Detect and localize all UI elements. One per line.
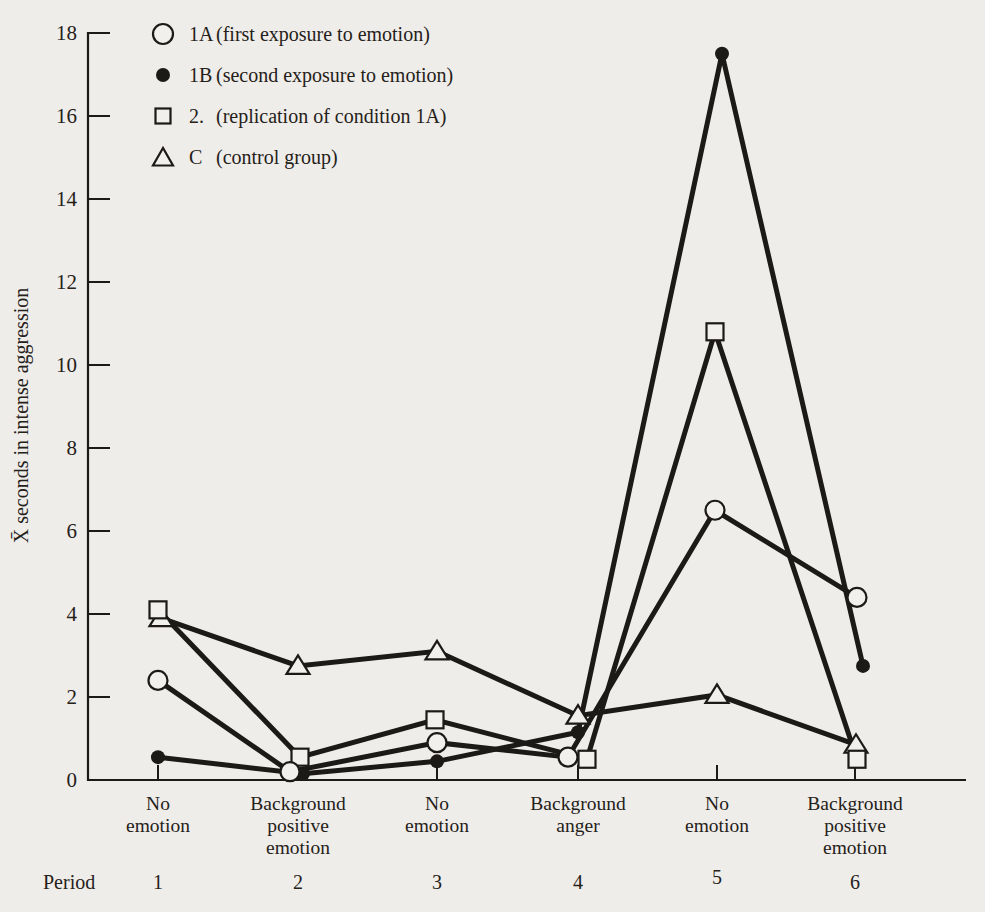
x-axis-label-line: emotion — [807, 837, 902, 859]
x-axis-label-period-2: Backgroundpositiveemotion — [250, 793, 345, 859]
legend-description: (second exposure to emotion) — [216, 64, 453, 87]
series-1B-filled-circle-marker — [430, 754, 444, 768]
series-2-open-square-marker — [150, 601, 167, 618]
series-1A-open-circle-marker — [149, 671, 168, 690]
series-1A-open-circle-marker — [281, 762, 300, 781]
x-axis-label-period-1: Noemotion — [126, 793, 190, 837]
series-2-open-square-marker — [427, 711, 444, 728]
period-number-1: 1 — [153, 871, 163, 894]
series-2-open-square-marker — [707, 323, 724, 340]
period-number-6: 6 — [850, 871, 860, 894]
series-1A-open-circle-marker — [706, 501, 725, 520]
x-axis-label-line: Background — [530, 793, 625, 815]
x-axis-label-period-3: Noemotion — [405, 793, 469, 837]
y-tick-label-18: 18 — [25, 21, 77, 45]
legend-code: C — [189, 146, 216, 169]
x-axis-label-line: emotion — [405, 815, 469, 837]
open-triangle-icon — [150, 145, 176, 169]
y-tick-label-8: 8 — [25, 436, 77, 460]
series-1A-open-circle-marker — [428, 733, 447, 752]
series-1B-filled-circle-marker — [571, 725, 585, 739]
legend-description: (replication of condition 1A) — [216, 105, 447, 128]
y-tick-label-12: 12 — [25, 270, 77, 294]
period-number-5: 5 — [712, 866, 722, 889]
legend-item-1B: 1B (second exposure to emotion) — [150, 63, 453, 87]
x-axis-label-line: emotion — [250, 837, 345, 859]
x-axis-label-line: emotion — [685, 815, 749, 837]
chart-canvas — [0, 0, 985, 912]
x-axis-label-line: Background — [250, 793, 345, 815]
open-square-icon — [150, 104, 176, 128]
y-tick-label-6: 6 — [25, 519, 77, 543]
legend-code: 1B — [189, 64, 216, 87]
legend-code: 1A — [189, 23, 216, 46]
y-tick-label-16: 16 — [25, 104, 77, 128]
series-1A-open-circle-marker — [848, 588, 867, 607]
y-tick-label-4: 4 — [25, 602, 77, 626]
x-axis-label-line: No — [126, 793, 190, 815]
y-tick-label-10: 10 — [25, 353, 77, 377]
legend-item-C: C (control group) — [150, 145, 453, 169]
period-row-label: Period — [43, 871, 95, 894]
legend-description: (first exposure to emotion) — [216, 23, 430, 46]
scanned-figure-page: X̄ seconds in intense aggression 0246810… — [0, 0, 985, 912]
x-axis-label-line: anger — [530, 815, 625, 837]
legend-code: 2. — [189, 105, 216, 128]
series-2-open-square-marker — [579, 751, 596, 768]
y-tick-label-14: 14 — [25, 187, 77, 211]
filled-circle-icon — [150, 63, 176, 87]
series-1B-filled-circle-marker — [856, 659, 870, 673]
x-axis-label-line: No — [405, 793, 469, 815]
y-tick-label-0: 0 — [25, 768, 77, 792]
x-axis-label-period-6: Backgroundpositiveemotion — [807, 793, 902, 859]
x-axis-label-line: emotion — [126, 815, 190, 837]
x-axis-label-line: No — [685, 793, 749, 815]
x-axis-label-period-5: Noemotion — [685, 793, 749, 837]
period-number-2: 2 — [293, 871, 303, 894]
y-tick-label-2: 2 — [25, 685, 77, 709]
legend-item-1A: 1A (first exposure to emotion) — [150, 22, 453, 46]
series-2-open-square-marker — [849, 751, 866, 768]
legend-description: (control group) — [216, 146, 338, 169]
period-number-3: 3 — [432, 871, 442, 894]
series-1A-line — [158, 510, 857, 771]
series-1B-filled-circle-marker — [715, 47, 729, 61]
x-axis-label-line: Background — [807, 793, 902, 815]
x-axis-label-line: positive — [250, 815, 345, 837]
legend: 1A (first exposure to emotion) 1B (secon… — [150, 22, 453, 186]
series-C-line — [161, 618, 856, 745]
period-number-4: 4 — [573, 871, 583, 894]
series-1B-filled-circle-marker — [151, 750, 165, 764]
x-axis-label-period-4: Backgroundanger — [530, 793, 625, 837]
series-1A-open-circle-marker — [559, 748, 578, 767]
open-circle-icon — [150, 22, 176, 46]
x-axis-label-line: positive — [807, 815, 902, 837]
series-2-line — [158, 332, 857, 759]
legend-item-2: 2. (replication of condition 1A) — [150, 104, 453, 128]
